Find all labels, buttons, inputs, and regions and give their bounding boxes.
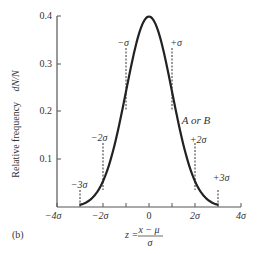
plus-3-sigma-label: +3σ [213,172,231,183]
x-tick-label: 2σ [190,210,201,221]
curve-label: A or B [181,114,211,126]
y-tick-label: 0.3 [40,58,53,69]
x-axis-label: z = x − μ σ [124,224,163,248]
x-axis-label-lhs: z = [124,229,138,240]
y-tick-labels: 0.4 0.3 0.2 0.1 [40,10,53,164]
x-tick-label: −4σ [45,210,63,221]
x-axis-label-numerator: x − μ [137,224,159,235]
x-axis-label-denominator: σ [148,237,154,248]
y-tick-label: 0.1 [40,153,53,164]
svg-text:Relative frequency dN/N: Relative frequency dN/N [10,69,21,178]
figure-label: (b) [12,229,24,241]
minus-1-sigma-label: −σ [117,37,130,48]
sigma-markers [80,48,218,207]
gaussian-chart: 0.4 0.3 0.2 0.1 Relative frequency dN/N … [0,0,254,256]
y-tick-label: 0.4 [40,10,53,21]
y-tick-label: 0.2 [40,105,53,116]
y-axis-label-symbol: dN/N [10,69,21,91]
x-tick-label: 4σ [236,210,247,221]
minus-3-sigma-label: −3σ [71,179,89,190]
plus-2-sigma-label: +2σ [190,134,208,145]
x-tick-labels: −4σ −2σ 0 2σ 4σ [45,210,247,221]
plus-1-sigma-label: +σ [170,37,183,48]
minus-2-sigma-label: −2σ [91,132,109,143]
x-tick-label: 0 [147,210,152,221]
gaussian-curve [80,17,218,205]
y-axis-label-text: Relative frequency [10,102,21,178]
y-axis-label: Relative frequency dN/N [10,69,21,178]
x-tick-label: −2σ [92,210,110,221]
